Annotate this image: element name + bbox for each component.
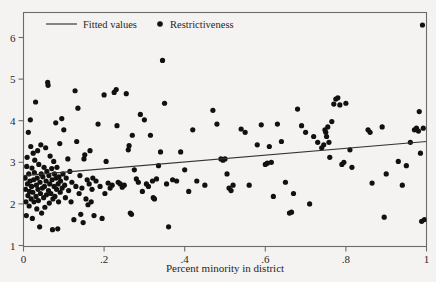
data-point xyxy=(129,212,134,217)
data-point xyxy=(166,224,171,229)
data-point xyxy=(396,159,401,164)
data-point xyxy=(267,144,272,149)
data-point xyxy=(421,126,426,131)
data-point xyxy=(174,178,179,183)
data-point xyxy=(160,58,165,63)
x-axis-title: Percent minority in district xyxy=(166,262,284,274)
data-point xyxy=(303,130,308,135)
data-point xyxy=(37,180,42,185)
data-point xyxy=(380,124,385,129)
data-point xyxy=(164,181,169,186)
data-point xyxy=(140,189,145,194)
data-point xyxy=(79,185,84,190)
data-point xyxy=(32,158,37,163)
legend-label-restrictiveness: Restrictiveness xyxy=(170,19,234,30)
data-point xyxy=(289,210,294,215)
data-point xyxy=(311,134,316,139)
data-point xyxy=(214,121,219,126)
data-point xyxy=(247,183,252,188)
data-point xyxy=(243,130,248,135)
data-point xyxy=(53,120,58,125)
data-point xyxy=(255,142,260,147)
data-point xyxy=(114,87,119,92)
data-point xyxy=(72,88,77,93)
data-point xyxy=(279,139,284,144)
data-point xyxy=(295,106,300,111)
data-point xyxy=(104,159,109,164)
data-point xyxy=(337,102,342,107)
data-point xyxy=(202,183,207,188)
data-point xyxy=(99,216,104,221)
data-point xyxy=(367,130,372,135)
data-point xyxy=(154,176,159,181)
data-point xyxy=(102,191,107,196)
data-point xyxy=(194,178,199,183)
data-point xyxy=(36,162,41,167)
data-point xyxy=(31,151,36,156)
data-point xyxy=(58,178,63,183)
data-point xyxy=(269,160,274,165)
data-point xyxy=(81,220,86,225)
data-point xyxy=(33,99,38,104)
data-point xyxy=(315,140,320,145)
data-point xyxy=(124,91,129,96)
y-tick-label: 5 xyxy=(10,73,16,85)
data-point xyxy=(65,156,70,161)
data-point xyxy=(66,188,71,193)
data-point xyxy=(62,183,67,188)
data-point xyxy=(97,184,102,189)
data-point xyxy=(271,194,276,199)
data-point xyxy=(210,108,215,113)
data-point xyxy=(239,126,244,131)
data-point xyxy=(420,22,425,27)
data-point xyxy=(28,117,33,122)
data-point xyxy=(24,164,29,169)
data-point xyxy=(331,101,336,106)
data-point xyxy=(29,166,34,171)
data-point xyxy=(54,165,59,170)
data-point xyxy=(83,196,88,201)
data-point xyxy=(186,189,191,194)
y-tick-label: 4 xyxy=(10,115,16,127)
data-point xyxy=(422,217,427,222)
data-point xyxy=(404,163,409,168)
data-point xyxy=(45,83,50,88)
x-tick-label: .2 xyxy=(100,253,108,265)
data-point xyxy=(24,213,29,218)
data-point xyxy=(25,155,30,160)
data-point xyxy=(73,184,78,189)
data-point xyxy=(71,217,76,222)
data-point xyxy=(35,148,40,153)
data-point xyxy=(38,191,43,196)
data-point xyxy=(224,171,229,176)
data-point xyxy=(61,127,66,132)
data-point xyxy=(29,184,34,189)
data-point xyxy=(417,109,422,114)
data-point xyxy=(418,151,423,156)
data-point xyxy=(291,191,296,196)
data-point xyxy=(87,181,92,186)
data-point xyxy=(30,190,35,195)
data-point xyxy=(39,210,44,215)
data-point xyxy=(230,183,235,188)
x-tick-label: 1 xyxy=(424,253,430,265)
x-tick-label: .8 xyxy=(342,253,351,265)
data-point xyxy=(47,200,52,205)
data-point xyxy=(69,180,74,185)
x-tick-label: 0 xyxy=(21,253,27,265)
data-point xyxy=(34,206,39,211)
data-point xyxy=(64,176,69,181)
data-point xyxy=(283,180,288,185)
data-point xyxy=(63,195,68,200)
scatter-plot-figure: 1234560.2.4.6.81Percent minority in dist… xyxy=(0,0,436,282)
data-point xyxy=(152,196,157,201)
data-point xyxy=(335,95,340,100)
data-layer xyxy=(23,22,428,232)
data-point xyxy=(28,144,33,149)
data-point xyxy=(77,173,82,178)
data-point xyxy=(77,191,82,196)
data-point xyxy=(95,121,100,126)
data-point xyxy=(91,213,96,218)
y-tick-label: 1 xyxy=(10,240,16,252)
data-point xyxy=(130,133,135,138)
